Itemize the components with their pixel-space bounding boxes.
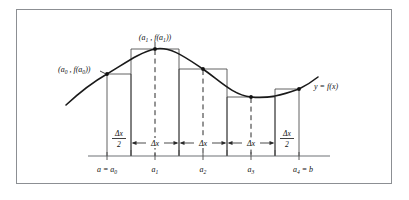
axis-label-a1: a1 [152, 165, 159, 175]
half-left-numerator: Δx [114, 129, 123, 138]
axis-label-a3: a3 [248, 165, 255, 175]
axis-label-a4: a4 = b [293, 165, 313, 175]
axis-tick-labels: a = a0 a1 a2 a3 a4 = b [97, 165, 313, 175]
label-point-a0: (a0 , f(a0)) [58, 65, 91, 75]
full-2-arrow-right [222, 141, 227, 145]
axis-label-a4-tail: = b [300, 165, 313, 174]
label-point-a1-mid: , f(a [148, 33, 163, 42]
full-1-label: Δx [150, 139, 160, 148]
dot-a4 [297, 87, 301, 91]
label-point-a1-post: )) [165, 33, 172, 42]
axis-label-a2: a2 [200, 165, 207, 175]
full-2-label: Δx [198, 139, 208, 148]
label-point-a1-pre: (a [139, 33, 146, 42]
axis-label-a0: a = a0 [97, 165, 117, 175]
axis-label-a0-sub: 0 [114, 169, 117, 175]
label-point-a0-mid: , f(a [67, 65, 82, 74]
axis-label-a2-sub: 2 [204, 169, 207, 175]
width-label-half-left: Δx 2 [112, 129, 126, 149]
full-3-label: Δx [246, 139, 256, 148]
full-1-arrow-left [132, 141, 137, 145]
width-label-full-1: Δx [132, 138, 179, 148]
half-right-denominator: 2 [285, 140, 289, 149]
annotation-point-a0: (a0 , f(a0)) [58, 65, 106, 75]
width-label-full-2: Δx [180, 138, 227, 148]
width-label-half-right: Δx 2 [280, 129, 294, 149]
label-point-a1: (a1 , f(a1)) [139, 33, 172, 43]
label-curve: y = f(x) [313, 82, 338, 91]
function-curve [66, 49, 318, 105]
axis-label-a0-main: a = a [97, 165, 114, 174]
label-point-a0-post: )) [84, 65, 91, 74]
width-label-full-3: Δx [228, 138, 275, 148]
annotation-curve-label: y = f(x) [313, 82, 338, 91]
leader-line-a0 [100, 71, 106, 74]
axis-label-a3-sub: 3 [251, 169, 255, 175]
half-left-denominator: 2 [117, 140, 121, 149]
full-3-arrow-right [270, 141, 275, 145]
riemann-sum-figure: Δx 2 Δx 2 Δx Δx [0, 0, 409, 200]
full-2-arrow-left [180, 141, 185, 145]
axis-label-a1-sub: 1 [156, 169, 159, 175]
half-right-numerator: Δx [282, 129, 291, 138]
label-curve-close: ) [334, 82, 338, 91]
full-1-arrow-right [174, 141, 179, 145]
label-point-a0-pre: (a [58, 65, 65, 74]
label-curve-eq: = [318, 82, 327, 91]
figure-root: Δx 2 Δx 2 Δx Δx [0, 0, 409, 200]
full-3-arrow-left [228, 141, 233, 145]
annotation-point-a1: (a1 , f(a1)) [139, 33, 172, 47]
